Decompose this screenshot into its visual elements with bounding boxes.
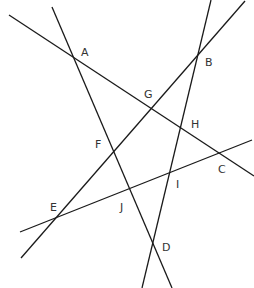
- line-BHID: [142, 0, 211, 288]
- point-label-h: H: [191, 118, 199, 131]
- point-label-c: C: [218, 163, 226, 176]
- point-label-j: J: [119, 201, 123, 214]
- point-label-a: A: [81, 46, 89, 59]
- geometry-diagram: ABGHFCIEJD: [0, 0, 254, 288]
- line-EJIC: [20, 140, 252, 232]
- point-label-b: B: [205, 56, 213, 69]
- line-AGHC: [9, 15, 254, 176]
- point-label-g: G: [144, 88, 153, 101]
- point-label-f: F: [95, 138, 101, 151]
- point-label-d: D: [162, 241, 170, 254]
- line-AFJD: [52, 7, 172, 288]
- point-label-i: I: [176, 178, 179, 191]
- diagram-canvas: ABGHFCIEJD: [0, 0, 254, 288]
- point-label-e: E: [50, 201, 57, 214]
- point-labels: ABGHFCIEJD: [50, 46, 226, 254]
- lines: [9, 0, 254, 288]
- line-EFGB: [21, 1, 245, 258]
